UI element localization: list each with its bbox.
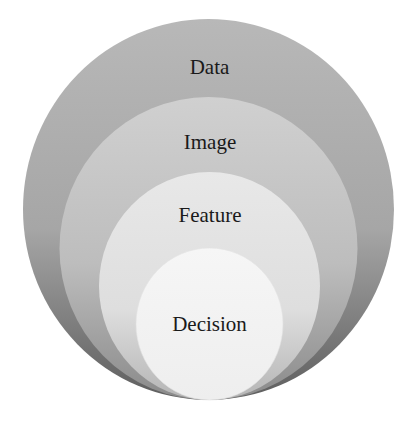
label-image: Image	[184, 130, 236, 154]
label-decision: Decision	[172, 312, 247, 336]
layer-decision: Decision	[136, 248, 283, 400]
label-feature: Feature	[179, 203, 242, 227]
label-data: Data	[190, 55, 230, 79]
nested-circles-diagram: Data Image Feature Decision	[0, 0, 416, 421]
